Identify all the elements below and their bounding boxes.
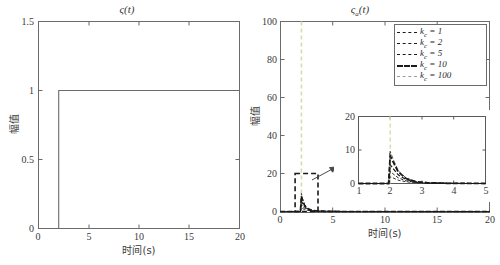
- legend: kc = 1 kc = 2 kc = 5 kc = 10 kc: [394, 24, 487, 86]
- right-plot-zoom-region: [295, 174, 318, 212]
- left-plot-panel: ς(t): [0, 0, 250, 265]
- left-xtick-3: 15: [184, 232, 194, 242]
- legend-item-kc-100[interactable]: kc = 100: [397, 71, 483, 82]
- right-xtick-2: 10: [380, 215, 390, 225]
- inset-xtick-2: 3: [420, 186, 425, 196]
- left-xtick-1: 5: [87, 232, 92, 242]
- legend-swatch-icon-kc-10: [397, 65, 417, 67]
- inset-plot: 1 2 3 4 5 0 10 20: [334, 110, 494, 202]
- right-xtick-3: 15: [432, 215, 442, 225]
- right-xtick-4: 20: [485, 215, 495, 225]
- left-ytick-3: 1.5: [10, 17, 34, 27]
- right-xtick-1: 5: [331, 215, 336, 225]
- inset-xtick-1: 2: [388, 186, 393, 196]
- right-ytick-4: 80: [252, 55, 277, 65]
- left-ytick-2: 1: [10, 86, 34, 96]
- left-plot-step-curve: [39, 91, 240, 229]
- inset-ytick-2: 20: [333, 112, 355, 122]
- right-ytick-0: 0: [252, 207, 277, 217]
- right-xaxis-label: 时间(s): [368, 229, 401, 239]
- left-xtick-0: 0: [36, 232, 41, 242]
- right-ytick-1: 20: [252, 169, 277, 179]
- right-xtick-0: 0: [278, 215, 283, 225]
- left-ytick-1: 0.5: [10, 155, 34, 165]
- left-plot-axes: [0, 0, 250, 265]
- left-xtick-4: 20: [235, 232, 245, 242]
- right-yaxis-label: 幅值: [251, 96, 261, 136]
- inset-series-group: [359, 151, 486, 183]
- legend-label-kc-100: kc = 100: [420, 70, 451, 83]
- left-xtick-2: 10: [134, 232, 144, 242]
- figure-canvas: ς(t): [0, 0, 500, 265]
- inset-ytick-0: 0: [333, 179, 355, 189]
- inset-xtick-3: 4: [452, 186, 457, 196]
- legend-swatch-icon-kc-1: [397, 32, 417, 33]
- right-plot-panel: ςa(t): [250, 0, 500, 265]
- left-yaxis-label: 幅值: [10, 104, 20, 144]
- left-xaxis-label: 时间(s): [122, 246, 155, 256]
- right-ytick-5: 100: [252, 17, 277, 27]
- left-ytick-0: 0: [10, 224, 34, 234]
- inset-xtick-0: 1: [357, 186, 362, 196]
- inset-series-kc100: [359, 151, 486, 183]
- inset-ytick-1: 10: [333, 145, 355, 155]
- legend-swatch-icon-kc-5: [397, 54, 417, 55]
- inset-series-kc10: [359, 156, 486, 184]
- legend-swatch-icon-kc-2: [397, 43, 417, 44]
- legend-swatch-icon-kc-100: [397, 76, 417, 77]
- inset-xtick-4: 5: [484, 186, 489, 196]
